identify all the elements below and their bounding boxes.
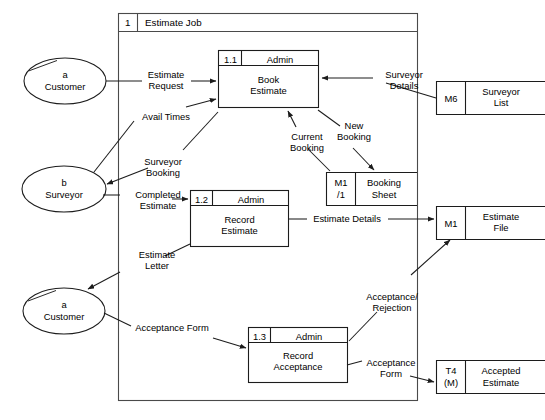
store-ref: T4 <box>446 365 457 376</box>
process-actor: Admin <box>238 194 265 205</box>
flow-label-line1: Estimate <box>139 249 175 260</box>
flow-label-line1: Acceptance/ <box>366 291 418 302</box>
flow-surveyor-details: Surveyor Details <box>322 69 436 98</box>
flow-acceptance-rejection: Acceptance/ Rejection <box>349 240 450 341</box>
process-name-line1: Record <box>283 350 313 361</box>
process-name-line2: Estimate <box>221 225 257 236</box>
flow-completed-estimate: Completed Estimate <box>103 189 188 211</box>
flow-estimate-details: Estimate Details <box>288 213 434 224</box>
process-ref: 1.1 <box>224 54 237 65</box>
flow-estimate-letter: Estimate Letter <box>88 244 190 289</box>
flow-current-booking: Current Booking <box>288 111 330 171</box>
flow-label-line1: Surveyor <box>385 69 423 80</box>
process-name-line1: Book <box>258 74 280 85</box>
process-1-3[interactable]: 1.3 Admin Record Acceptance <box>249 328 348 383</box>
store-ref: M6 <box>444 93 457 104</box>
entity-ref: b <box>61 177 66 188</box>
flow-label-line1: New <box>345 120 364 131</box>
store-ref: M1 <box>334 177 347 188</box>
flow-label-line1: Surveyor <box>144 156 182 167</box>
external-entity-customer-top[interactable]: a Customer <box>24 58 106 104</box>
flow-label-line1: Avail Times <box>142 111 190 122</box>
data-store-m1[interactable]: M1 Estimate File <box>437 207 545 240</box>
dfd-svg: 1 Estimate Job a Customer b Surveyor a C… <box>0 0 545 420</box>
store-ref: M1 <box>444 218 457 229</box>
entity-label: Customer <box>45 81 86 92</box>
flow-label-line1: Estimate Details <box>313 213 381 224</box>
store-ref-suffix: (M) <box>444 377 458 388</box>
flow-label-line1: Acceptance <box>367 357 416 368</box>
process-name-line2: Estimate <box>250 85 286 96</box>
process-actor: Admin <box>296 331 323 342</box>
store-name-line2: File <box>493 222 508 233</box>
boundary-label: Estimate Job <box>145 17 202 28</box>
store-name-line2: Estimate <box>483 377 519 388</box>
flow-label-line2: Estimate <box>140 200 176 211</box>
process-1-1[interactable]: 1.1 Admin Book Estimate <box>219 51 319 108</box>
flow-estimate-request: Estimate Request <box>106 69 216 91</box>
data-store-m6[interactable]: M6 Surveyor List <box>437 82 545 115</box>
store-name-line1: Estimate <box>483 211 519 222</box>
flow-label-line2: Form <box>380 368 402 379</box>
store-name-line1: Surveyor <box>482 86 520 97</box>
flow-label-line1: Current <box>291 131 323 142</box>
data-store-t4[interactable]: T4 (M) Accepted Estimate <box>437 361 545 394</box>
entity-label: Customer <box>44 311 85 322</box>
store-name-line1: Booking <box>367 177 401 188</box>
dfd-canvas: 1 Estimate Job a Customer b Surveyor a C… <box>0 0 545 420</box>
entity-ref: a <box>62 69 68 80</box>
store-name-line2: List <box>494 97 509 108</box>
flow-acceptance-form-out: Acceptance Form <box>347 357 434 382</box>
flow-label-line2: Booking <box>146 167 180 178</box>
flow-label-line2: Rejection <box>372 302 411 313</box>
store-name-line2: Sheet <box>372 189 397 200</box>
flow-acceptance-form-in: Acceptance Form <box>104 313 246 348</box>
external-entity-surveyor[interactable]: b Surveyor <box>22 166 106 212</box>
process-actor: Admin <box>267 54 294 65</box>
process-name-line2: Acceptance <box>274 361 323 372</box>
flow-label-line2: Details <box>390 80 419 91</box>
flow-label-line1: Estimate <box>148 69 184 80</box>
store-name-line1: Accepted <box>481 365 520 376</box>
entity-label: Surveyor <box>45 189 83 200</box>
flow-label-line1: Completed <box>135 189 180 200</box>
store-ref-suffix: /1 <box>337 189 345 200</box>
flow-new-booking: New Booking <box>318 110 374 170</box>
external-entity-customer-bottom[interactable]: a Customer <box>23 288 105 334</box>
flow-label-line2: Booking <box>337 131 371 142</box>
flow-label-line1: Acceptance Form <box>135 322 209 333</box>
flow-label-line2: Booking <box>290 142 324 153</box>
boundary-ref: 1 <box>125 17 130 28</box>
process-1-2[interactable]: 1.2 Admin Record Estimate <box>191 191 289 247</box>
flow-label-line2: Request <box>149 80 184 91</box>
process-ref: 1.3 <box>253 331 266 342</box>
process-ref: 1.2 <box>195 194 208 205</box>
process-name-line1: Record <box>224 214 254 225</box>
flow-label-line2: Letter <box>145 260 169 271</box>
flow-surveyor-booking: Surveyor Booking <box>107 112 218 184</box>
data-store-m1-1[interactable]: M1 /1 Booking Sheet <box>327 173 418 206</box>
entity-ref: a <box>61 299 67 310</box>
